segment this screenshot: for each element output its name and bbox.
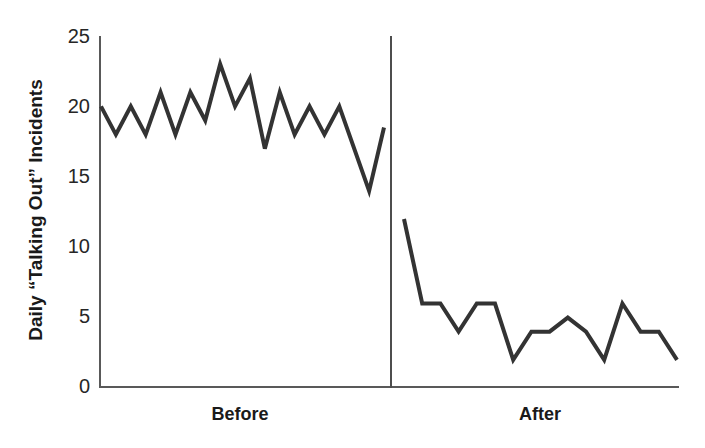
y-tick-label-0: 0 (44, 376, 90, 396)
y-tick-label-20: 20 (44, 96, 90, 116)
series-line-before (101, 64, 384, 191)
phase-label-before: Before (150, 404, 330, 425)
data-series-plot (99, 36, 679, 388)
y-tick-label-15: 15 (44, 166, 90, 186)
phase-label-after: After (450, 404, 630, 425)
plot-area (99, 36, 679, 388)
y-tick-label-10: 10 (44, 236, 90, 256)
y-tick-label-5: 5 (44, 306, 90, 326)
y-axis-tick-labels: 25 20 15 10 5 0 (44, 0, 90, 448)
chart-screenshot: Daily “Talking Out” Incidents 25 20 15 1… (0, 0, 705, 448)
series-line-after (404, 219, 677, 360)
y-tick-label-25: 25 (44, 26, 90, 46)
